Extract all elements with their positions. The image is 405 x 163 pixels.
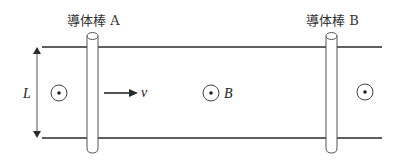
velocity-label: v [141, 85, 148, 100]
length-dimension-arrow [33, 47, 41, 138]
field-label: B [224, 86, 233, 101]
conductor-rod-b [326, 33, 337, 154]
rod-b-label: 導体棒 B [306, 13, 359, 28]
field-out-of-page-icon [203, 85, 219, 101]
conductor-rod-a [87, 33, 98, 154]
velocity-arrow [104, 89, 138, 97]
induction-rails-diagram: L 導体棒 A 導体棒 B B v [0, 0, 405, 163]
rod-a-label: 導体棒 A [67, 13, 120, 28]
field-out-of-page-icon [357, 84, 373, 100]
length-label: L [22, 86, 31, 101]
field-out-of-page-icon [51, 85, 67, 101]
